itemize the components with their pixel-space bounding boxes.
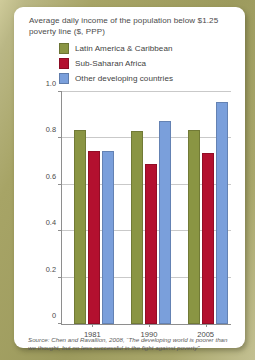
legend-item-latin-america: Latin America & Caribbean: [59, 41, 234, 56]
bar: [88, 151, 100, 324]
legend-label-other-developing: Other developing countries: [75, 74, 173, 83]
bar: [102, 151, 114, 324]
y-tick-mark: [58, 184, 62, 185]
y-axis-tick-label: 0: [52, 311, 56, 320]
legend-label-sub-saharan-africa: Sub-Saharan Africa: [75, 59, 146, 68]
page-title: Average daily income of the population b…: [29, 15, 231, 37]
y-axis-tick-label: 0.6: [46, 171, 56, 180]
legend-swatch-other-developing: [59, 73, 69, 84]
bar-group-2005: [188, 92, 228, 324]
source-note: Source: Chen and Ravallion, 2008, “The d…: [28, 336, 233, 352]
legend-swatch-latin-america: [59, 43, 69, 54]
bar: [188, 130, 200, 324]
legend-item-sub-saharan-africa: Sub-Saharan Africa: [59, 56, 234, 71]
bar: [216, 102, 228, 324]
bar: [74, 130, 86, 324]
x-tick-mark: [92, 324, 93, 327]
y-tick-mark: [58, 277, 62, 278]
bar: [202, 153, 214, 324]
x-tick-mark: [149, 324, 150, 327]
bar-group-1990: [131, 92, 171, 324]
x-tick-mark: [206, 324, 207, 327]
poster-background: Average daily income of the population b…: [0, 0, 255, 360]
y-tick-mark: [58, 137, 62, 138]
y-tick-mark: [58, 91, 62, 92]
bar: [131, 131, 143, 324]
legend-swatch-sub-saharan-africa: [59, 58, 69, 69]
y-tick-mark: [58, 323, 62, 324]
y-axis-tick-label: 0.8: [46, 125, 56, 134]
bar-group-1981: [74, 92, 114, 324]
chart-legend: Latin America & Caribbean Sub-Saharan Af…: [59, 41, 234, 86]
y-tick-mark: [58, 230, 62, 231]
legend-label-latin-america: Latin America & Caribbean: [75, 44, 173, 53]
plot-area: 00.20.40.60.81.0198119902005: [61, 92, 231, 325]
bar: [159, 121, 171, 324]
legend-item-other-developing: Other developing countries: [59, 71, 234, 86]
chart-card: Average daily income of the population b…: [14, 7, 245, 348]
y-axis-tick-label: 0.4: [46, 218, 56, 227]
y-axis-tick-label: 0.2: [46, 264, 56, 273]
y-axis-tick-label: 1.0: [46, 79, 56, 88]
bar: [145, 164, 157, 324]
